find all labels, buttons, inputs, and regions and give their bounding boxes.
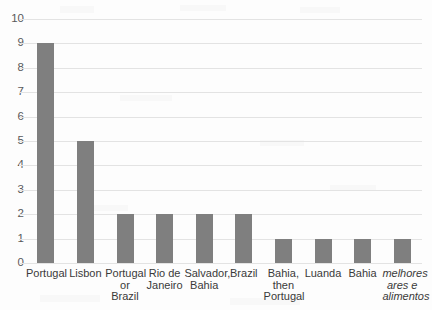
bar	[117, 214, 134, 263]
gridline	[19, 263, 422, 264]
gridline	[19, 68, 422, 69]
x-axis-tick-label: Lisbon	[66, 268, 106, 280]
bar	[315, 239, 332, 263]
scan-artifact	[60, 6, 94, 13]
bar	[196, 214, 213, 263]
bar	[394, 239, 411, 263]
bar	[37, 43, 54, 263]
x-axis-tick-label: Brazil	[224, 268, 264, 280]
gridline	[19, 43, 422, 44]
bar-chart: 109876543210 PortugalLisbonPortugal or B…	[0, 0, 432, 310]
scan-artifact	[40, 295, 100, 302]
gridline	[19, 92, 422, 93]
bar	[156, 214, 173, 263]
x-axis-tick-label: Luanda	[303, 268, 343, 280]
bar	[77, 141, 94, 263]
x-axis-tick-label: Bahia, then Portugal	[264, 268, 304, 303]
gridline	[19, 117, 422, 118]
x-axis-tick-label: Portugal or Brazil	[105, 268, 145, 303]
x-axis-tick-label: Bahia	[343, 268, 383, 280]
bar	[275, 239, 292, 263]
bar	[235, 214, 252, 263]
scan-artifact	[300, 7, 340, 13]
x-axis-tick-label: melhores ares e alimentos	[382, 268, 422, 303]
gridline	[19, 19, 422, 20]
x-axis-tick-label: Portugal	[26, 268, 66, 280]
plot-area	[26, 19, 422, 263]
x-axis-tick-label: Salvador, Bahia	[184, 268, 224, 291]
scan-artifact	[180, 5, 226, 11]
x-axis-tick-label: Rio de Janeiro	[145, 268, 185, 291]
bar	[354, 239, 371, 263]
